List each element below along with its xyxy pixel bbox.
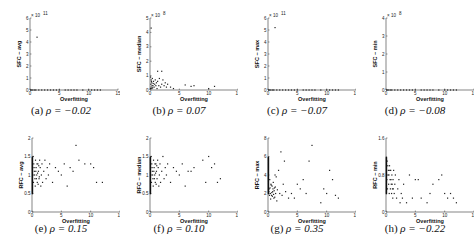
data-point: [415, 89, 416, 90]
data-point: [190, 171, 191, 172]
data-point: [268, 89, 269, 90]
data-point: [97, 89, 98, 90]
data-point: [102, 182, 103, 183]
panel-e: 05101500.511.52OverfittingRFC − avg(e) ρ…: [2, 126, 120, 251]
data-point: [163, 178, 164, 179]
data-point: [214, 163, 215, 164]
data-point: [173, 88, 174, 89]
data-point: [154, 87, 155, 88]
data-point: [387, 89, 388, 90]
data-point: [389, 193, 390, 194]
data-point: [156, 165, 157, 166]
data-point: [49, 163, 50, 164]
y-tick-label: 3: [146, 44, 149, 49]
scatter-plot-h: 05101500.81.6OverfittingRFC − min: [356, 126, 474, 236]
data-point: [447, 198, 448, 199]
y-tick-label: 0.8: [378, 173, 385, 178]
data-point: [268, 171, 269, 172]
data-point: [67, 186, 68, 187]
x-axis-label: Overfitting: [298, 96, 326, 102]
data-point: [150, 171, 151, 172]
data-point: [35, 186, 36, 187]
y-tick-label: 3: [26, 52, 29, 57]
data-point: [170, 182, 171, 183]
y-tick-label: 0.5: [142, 191, 149, 196]
data-point: [400, 89, 401, 90]
data-point: [323, 188, 324, 189]
data-point: [268, 176, 269, 177]
y-tick-label: 5: [146, 16, 149, 21]
data-point: [41, 174, 42, 175]
data-point: [390, 179, 391, 180]
data-point: [388, 89, 389, 90]
data-point: [409, 174, 410, 175]
x-tick-label: 0: [385, 213, 388, 218]
data-point: [151, 79, 152, 80]
data-point: [32, 191, 33, 192]
data-point: [190, 86, 191, 87]
data-point: [150, 191, 151, 192]
panel-d: 05101501234× 108OverfittingSFC − min(d) …: [356, 0, 474, 125]
caption-letter: (g): [270, 222, 286, 234]
y-tick-label: 3: [264, 52, 267, 57]
data-point: [392, 198, 393, 199]
data-point: [393, 188, 394, 189]
data-point: [44, 160, 45, 161]
data-point: [34, 171, 35, 172]
data-point: [94, 89, 95, 90]
subfigure-caption: (e) ρ = 0.15: [2, 222, 120, 234]
data-point: [41, 89, 42, 90]
data-point: [38, 89, 39, 90]
y-tick-label: 3: [382, 34, 385, 39]
data-point: [281, 195, 282, 196]
data-point: [150, 76, 151, 77]
data-point: [32, 173, 33, 174]
data-point: [282, 89, 283, 90]
data-point: [320, 202, 321, 203]
data-point: [421, 89, 422, 90]
data-point: [150, 159, 151, 160]
y-tick-label: 5: [26, 28, 29, 33]
data-point: [153, 171, 154, 172]
data-point: [424, 89, 425, 90]
data-point: [269, 89, 270, 90]
data-point: [35, 160, 36, 161]
data-point: [387, 165, 388, 166]
data-point: [38, 178, 39, 179]
data-point: [268, 179, 269, 180]
data-point: [444, 89, 445, 90]
panel-g: 05101502468OverfittingRFC − max(g) ρ = 0…: [238, 126, 356, 251]
data-point: [418, 179, 419, 180]
data-point: [386, 179, 387, 180]
data-point: [412, 89, 413, 90]
data-point: [152, 174, 153, 175]
data-point: [399, 202, 400, 203]
data-point: [55, 167, 56, 168]
data-point: [303, 179, 304, 180]
data-point: [161, 84, 162, 85]
data-point: [211, 167, 212, 168]
data-point: [68, 89, 69, 90]
data-point: [395, 174, 396, 175]
data-point: [156, 88, 157, 89]
data-point: [273, 194, 274, 195]
x-tick-label: 0: [149, 91, 152, 96]
data-point: [70, 167, 71, 168]
data-point: [397, 188, 398, 189]
data-point: [151, 167, 152, 168]
data-point: [47, 167, 48, 168]
data-point: [284, 161, 285, 162]
data-point: [450, 193, 451, 194]
data-point: [208, 88, 209, 89]
data-point: [65, 89, 66, 90]
data-point: [271, 192, 272, 193]
panel-c: 0510150123456× 1011OverfittingSFC − max(…: [238, 0, 356, 125]
data-point: [394, 184, 395, 185]
data-point: [151, 81, 152, 82]
data-point: [394, 193, 395, 194]
data-point: [32, 168, 33, 169]
y-axis-label: RFC − median: [136, 156, 142, 193]
data-point: [314, 89, 315, 90]
y-tick-label: 1: [146, 73, 149, 78]
data-point: [156, 82, 157, 83]
